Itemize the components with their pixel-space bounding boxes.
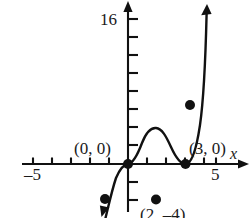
- point-origin: [123, 159, 133, 169]
- curve-cubic: [100, 4, 212, 218]
- y-axis: [123, 1, 138, 212]
- x-axis-arrowhead: [238, 159, 249, 168]
- point-minimum: [151, 195, 161, 205]
- curve-up-arrowhead: [201, 4, 211, 15]
- x-axis-tick-label-minus5: –5: [24, 166, 41, 183]
- marked-points: [100, 100, 195, 205]
- x-axis-label: x: [230, 146, 237, 162]
- y-axis-arrowhead: [123, 1, 132, 12]
- point-label-minimum: (2, –4): [140, 206, 185, 218]
- x-axis-tick-label-5: 5: [211, 166, 220, 183]
- point-label-root: (3, 0): [189, 140, 226, 157]
- y-axis-ticks: [128, 19, 138, 200]
- point-label-origin: (0, 0): [74, 140, 111, 157]
- point-lower-branch: [100, 194, 110, 204]
- graph-figure: 16 –5 5 (0, 0) (3, 0) (2, –4) x: [0, 0, 252, 218]
- y-axis-tick-label-16: 16: [100, 11, 117, 28]
- cubic-function-plot: [0, 0, 252, 218]
- point-root-3: [181, 159, 191, 169]
- point-upper-branch: [185, 100, 195, 110]
